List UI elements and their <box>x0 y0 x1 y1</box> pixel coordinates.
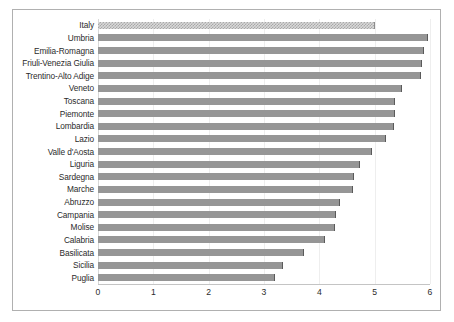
bar <box>98 123 394 130</box>
bar <box>98 85 402 92</box>
bar-row <box>98 19 430 32</box>
category-label: Lombardia <box>13 120 98 133</box>
x-tick-label: 5 <box>372 287 377 297</box>
category-label: Trentino-Alto Adige <box>13 70 98 83</box>
bar-row <box>98 183 430 196</box>
bar <box>98 249 304 256</box>
x-tick-label: 6 <box>428 287 433 297</box>
bar <box>98 186 353 193</box>
x-axis-tick-labels: 0123456 <box>98 287 430 303</box>
category-label: Veneto <box>13 82 98 95</box>
category-label: Valle d'Aosta <box>13 145 98 158</box>
bar <box>98 34 428 41</box>
bar-row <box>98 32 430 45</box>
bar-row <box>98 107 430 120</box>
bar-row <box>98 272 430 285</box>
chart-container: ItalyUmbriaEmilia-RomagnaFriuli-Venezia … <box>12 9 441 311</box>
x-tick-label: 4 <box>317 287 322 297</box>
bar-row <box>98 44 430 57</box>
category-label: Liguria <box>13 158 98 171</box>
category-label: Sardegna <box>13 171 98 184</box>
bar-row <box>98 221 430 234</box>
category-label: Italy <box>13 19 98 32</box>
gridline <box>430 19 431 284</box>
category-label: Sicilia <box>13 259 98 272</box>
x-tick-label: 3 <box>262 287 267 297</box>
bar-row <box>98 57 430 70</box>
bar <box>98 47 424 54</box>
bar-row <box>98 259 430 272</box>
bar-row <box>98 246 430 259</box>
chart-plot-wrapper: ItalyUmbriaEmilia-RomagnaFriuli-Venezia … <box>13 10 440 310</box>
bar <box>98 60 422 67</box>
bar <box>98 211 336 218</box>
bar-row <box>98 208 430 221</box>
category-label: Toscana <box>13 95 98 108</box>
category-label: Emilia-Romagna <box>13 44 98 57</box>
category-label: Friuli-Venezia Giulia <box>13 57 98 70</box>
bar-row <box>98 196 430 209</box>
bar <box>98 236 325 243</box>
bar <box>98 173 354 180</box>
bar <box>98 199 340 206</box>
bar <box>98 72 421 79</box>
category-label: Piemonte <box>13 107 98 120</box>
bar-row <box>98 95 430 108</box>
bar <box>98 224 335 231</box>
bar <box>98 148 372 155</box>
bar <box>98 98 395 105</box>
bar-series <box>98 19 430 284</box>
x-tick-label: 1 <box>151 287 156 297</box>
x-axis-line <box>98 284 430 285</box>
bar-row <box>98 120 430 133</box>
category-label: Lazio <box>13 133 98 146</box>
bar-row <box>98 158 430 171</box>
bar <box>98 110 395 117</box>
category-label: Umbria <box>13 32 98 45</box>
bar <box>98 274 275 281</box>
bar-row <box>98 145 430 158</box>
bar-row <box>98 82 430 95</box>
bar <box>98 161 360 168</box>
bar <box>98 262 283 269</box>
plot-area <box>98 19 430 284</box>
category-label: Puglia <box>13 272 98 285</box>
bar-row <box>98 133 430 146</box>
category-label: Basilicata <box>13 246 98 259</box>
x-tick-label: 0 <box>96 287 101 297</box>
category-axis-labels: ItalyUmbriaEmilia-RomagnaFriuli-Venezia … <box>13 19 98 284</box>
bar-row <box>98 234 430 247</box>
bar-highlight <box>98 22 375 29</box>
category-label: Campania <box>13 208 98 221</box>
category-label: Molise <box>13 221 98 234</box>
category-label: Abruzzo <box>13 196 98 209</box>
category-label: Marche <box>13 183 98 196</box>
bar-row <box>98 70 430 83</box>
bar <box>98 135 386 142</box>
x-tick-label: 2 <box>206 287 211 297</box>
bar-row <box>98 171 430 184</box>
category-label: Calabria <box>13 234 98 247</box>
